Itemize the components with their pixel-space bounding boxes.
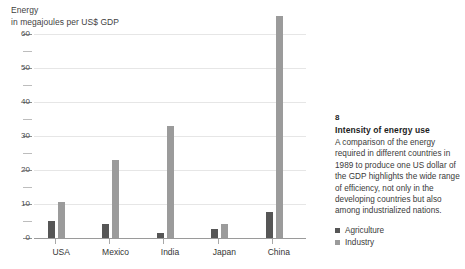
bar-industry — [276, 16, 283, 238]
bar-industry — [167, 126, 174, 238]
bar-group: China — [252, 25, 306, 238]
y-axis-tick-label: 0 — [26, 234, 30, 242]
legend-label: Industry — [345, 238, 374, 247]
x-axis-tick-label: India — [143, 247, 197, 257]
y-axis-tick-label: 50 — [21, 64, 30, 72]
bar-agriculture — [48, 221, 55, 238]
y-axis-minor-tick — [23, 119, 32, 120]
bar-group: USA — [34, 25, 88, 238]
axis-title-line1: Energy — [11, 5, 119, 17]
legend-item-industry: Industry — [335, 236, 384, 248]
y-axis-minor-tick — [23, 221, 32, 222]
bar-agriculture — [266, 212, 273, 238]
legend-item-agriculture: Agriculture — [335, 224, 384, 236]
plot-area: 0102030405060 USAMexicoIndiaJapanChina — [34, 25, 306, 239]
caption-panel: 8 Intensity of energy use A comparison o… — [335, 0, 461, 269]
bar-group: India — [143, 25, 197, 238]
bar-industry — [58, 202, 65, 238]
bar-agriculture — [102, 224, 109, 238]
legend-swatch-icon — [335, 228, 340, 233]
bar-group: Mexico — [88, 25, 142, 238]
chart-panel: Energy in megajoules per US$ GDP 0102030… — [0, 0, 320, 269]
bar-group: Japan — [197, 25, 251, 238]
legend-label: Agriculture — [345, 226, 384, 235]
bar-industry — [221, 224, 228, 238]
bar-industry — [112, 160, 119, 238]
y-axis-minor-tick — [23, 85, 32, 86]
x-axis-tick-label: Japan — [197, 247, 251, 257]
y-axis-minor-tick — [23, 51, 32, 52]
y-axis-tick-label: 30 — [21, 132, 30, 140]
y-axis-minor-tick — [23, 153, 32, 154]
caption-body: A comparison of the energy required in d… — [335, 137, 463, 217]
axis-baseline — [34, 238, 306, 239]
legend-swatch-icon — [335, 240, 340, 245]
y-axis-tick-label: 10 — [21, 200, 30, 208]
y-axis-tick-label: 20 — [21, 166, 30, 174]
y-axis-tick-label: 40 — [21, 98, 30, 106]
caption-title: Intensity of energy use — [335, 125, 430, 135]
x-axis-tick-label: Mexico — [88, 247, 142, 257]
caption-number: 8 — [335, 113, 339, 122]
chart-legend: AgricultureIndustry — [335, 224, 384, 248]
y-axis-tick-label: 60 — [21, 30, 30, 38]
bar-agriculture — [211, 229, 218, 238]
x-axis-tick-label: China — [252, 247, 306, 257]
x-axis-tick-label: USA — [34, 247, 88, 257]
y-axis-minor-tick — [23, 187, 32, 188]
